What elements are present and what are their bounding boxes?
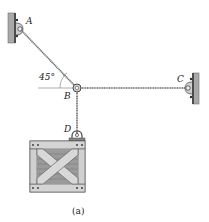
label-point-d: D — [64, 125, 71, 134]
diagram-canvas: A 45° B C D (a) — [0, 0, 209, 222]
label-angle: 45° — [39, 73, 55, 82]
angle-arc — [60, 75, 65, 88]
pin-a-icon — [16, 23, 23, 35]
crate — [30, 141, 85, 192]
label-point-a: A — [26, 17, 33, 26]
pin-c-icon — [185, 82, 192, 94]
diagram-svg — [0, 0, 209, 222]
figure-caption: (a) — [72, 207, 84, 216]
label-point-c: C — [177, 75, 184, 84]
label-point-b: B — [64, 92, 71, 101]
ring-b-icon — [73, 84, 81, 92]
